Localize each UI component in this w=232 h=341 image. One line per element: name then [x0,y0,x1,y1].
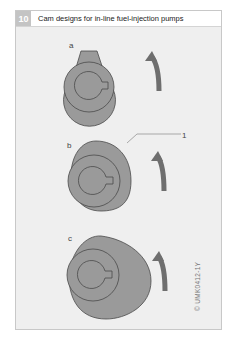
cam-a [64,51,160,126]
cam-drawings [16,11,223,331]
figure-frame: 10 Cam designs for in-line fuel-injectio… [15,10,222,330]
cam-b [68,134,181,211]
cam-c [67,236,165,319]
